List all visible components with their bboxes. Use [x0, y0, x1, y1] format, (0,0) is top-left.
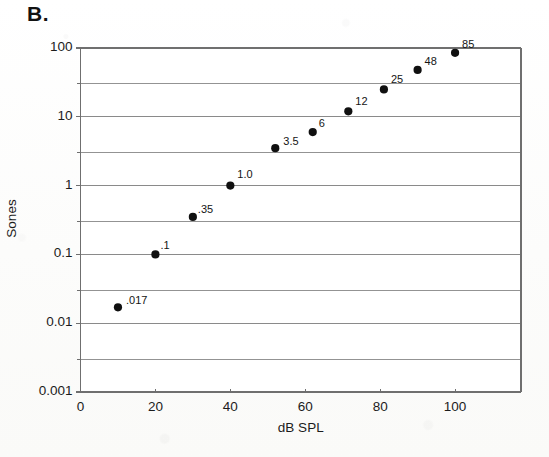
y-tick-label: 0.01: [15, 314, 73, 329]
x-tick-label: 100: [430, 399, 480, 414]
x-axis-title: dB SPL: [81, 420, 522, 435]
data-point-marker: [414, 66, 422, 74]
x-tick-label: 0: [56, 399, 106, 414]
sones-vs-db-spl-scatter-chart: 1001010.10.010.001020406080100 .017.1.35…: [0, 0, 549, 457]
data-point-label: 1.0: [237, 168, 252, 180]
y-tick-label: 100: [15, 39, 73, 54]
data-point-marker: [114, 303, 122, 311]
y-tick-label: 1: [15, 177, 73, 192]
data-point-marker: [189, 213, 197, 221]
data-point-label: .35: [198, 203, 213, 215]
y-tick-label: 10: [15, 108, 73, 123]
data-point-marker: [380, 85, 388, 93]
x-tick-label: 80: [355, 399, 405, 414]
data-point-label: .017: [126, 294, 147, 306]
y-tick-label: 0.1: [15, 245, 73, 260]
data-point-label: 48: [425, 55, 437, 67]
y-axis-title: Sones: [3, 174, 18, 264]
y-tick-label: 0.001: [15, 383, 73, 398]
data-point-marker: [451, 49, 459, 57]
data-point-label: 12: [355, 95, 367, 107]
x-tick-label: 40: [205, 399, 255, 414]
plot-svg: [0, 0, 549, 457]
data-point-label: 3.5: [283, 135, 298, 147]
data-point-marker: [151, 250, 159, 258]
data-point-label: 85: [462, 38, 474, 50]
data-point-label: 6: [319, 117, 325, 129]
data-point-marker: [226, 182, 234, 190]
data-point-marker: [309, 128, 317, 136]
plot-background: [81, 48, 522, 392]
x-tick-label: 60: [280, 399, 330, 414]
data-point-marker: [271, 144, 279, 152]
data-point-label: .1: [160, 239, 169, 251]
data-point-label: 25: [391, 73, 403, 85]
data-point-marker: [344, 107, 352, 115]
x-tick-label: 20: [130, 399, 180, 414]
